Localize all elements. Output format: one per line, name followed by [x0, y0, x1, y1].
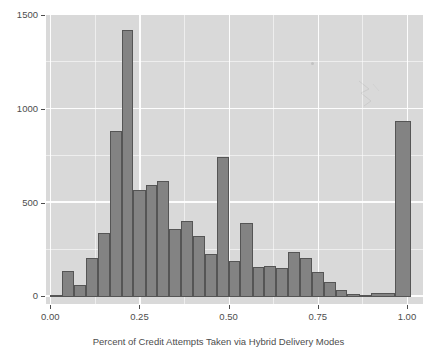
x-axis-tick-mark — [229, 305, 230, 309]
histogram-bar — [347, 294, 359, 296]
histogram-bar — [169, 229, 181, 297]
y-axis-tick-label: 0 — [0, 291, 38, 301]
x-axis-tick-label: 1.00 — [385, 311, 429, 322]
y-axis-tick-mark — [41, 296, 45, 297]
y-axis-tick-label: 500 — [0, 198, 38, 208]
x-axis-tick-mark — [50, 305, 51, 309]
histogram-bar — [324, 282, 336, 296]
histogram-bar — [300, 258, 312, 296]
y-axis-tick-label: 1500 — [0, 10, 38, 20]
x-axis-title: Percent of Credit Attempts Taken via Hyb… — [0, 336, 437, 347]
x-axis-tick-label: 0.25 — [117, 311, 161, 322]
histogram-bar — [360, 295, 372, 297]
histogram-bar — [133, 190, 145, 296]
histogram-bar — [98, 233, 110, 297]
y-axis-tick-mark — [41, 15, 45, 16]
histogram-bar — [74, 285, 86, 296]
x-axis-tick-label: 0.00 — [28, 311, 72, 322]
plot-panel — [46, 15, 423, 304]
x-axis-tick-mark — [407, 305, 408, 309]
y-axis-tick-mark — [41, 203, 45, 204]
histogram-bar — [229, 261, 241, 297]
histogram-bar — [86, 258, 98, 296]
x-axis-tick-mark — [318, 305, 319, 309]
histogram-bar — [205, 254, 217, 296]
histogram-bar — [240, 223, 252, 296]
histogram-bar — [276, 268, 288, 296]
histogram-bar — [62, 271, 74, 296]
y-axis-tick-mark — [41, 109, 45, 110]
histogram-bar — [371, 293, 395, 296]
histogram-bar — [193, 236, 205, 296]
histogram-bar — [157, 181, 169, 296]
y-axis-tick-label: 1000 — [0, 104, 38, 114]
histogram-figure: 050010001500 0.000.250.500.751.00 Percen… — [0, 0, 437, 360]
histogram-bar — [122, 30, 134, 296]
histogram-bar — [217, 157, 229, 297]
histogram-bar — [110, 131, 122, 296]
x-axis-tick-label: 0.75 — [296, 311, 340, 322]
histogram-bar — [50, 295, 62, 297]
histogram-bar — [146, 185, 158, 297]
histogram-bar — [253, 267, 265, 296]
x-axis-tick-mark — [139, 305, 140, 309]
histogram-bar — [312, 272, 324, 296]
histogram-bar — [181, 221, 193, 296]
histogram-bar — [336, 290, 348, 297]
histogram-bar — [288, 252, 300, 296]
histogram-bars — [46, 15, 423, 304]
histogram-bar — [264, 266, 276, 297]
histogram-bar — [395, 121, 410, 296]
x-axis-tick-label: 0.50 — [207, 311, 251, 322]
